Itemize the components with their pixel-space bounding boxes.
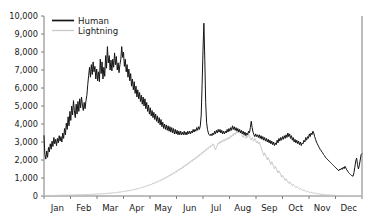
x-tick-label: Feb [76, 203, 91, 213]
y-tick-label: 10,000 [9, 11, 38, 21]
y-tick-label: 1,000 [15, 173, 38, 183]
x-tick-label: Mar [102, 203, 119, 213]
y-tick-label: 5,000 [15, 101, 38, 111]
y-tick-label: 8,000 [15, 47, 38, 57]
x-tick-label: Sep [261, 203, 277, 213]
x-tick-label: Jul [210, 203, 221, 213]
y-tick-label: 0 [33, 191, 38, 201]
y-tick-label: 4,000 [15, 119, 38, 129]
x-tick-label: Dec [340, 203, 357, 213]
y-tick-label: 7,000 [15, 65, 38, 75]
legend-label-human: Human [78, 16, 109, 26]
x-tick-label: Oct [288, 203, 303, 213]
x-tick-label: Aug [234, 203, 251, 213]
y-tick-label: 3,000 [15, 137, 38, 147]
y-tick-label: 9,000 [15, 29, 38, 39]
x-tick-label: Jun [182, 203, 196, 213]
y-tick-label: 6,000 [15, 83, 38, 93]
x-tick-label: Jan [50, 203, 64, 213]
y-tick-label: 2,000 [15, 155, 38, 165]
legend-label-lightning: Lightning [78, 26, 118, 36]
x-tick-label: May [154, 203, 172, 213]
x-tick-label: Nov [314, 203, 331, 213]
line-chart: 01,0002,0003,0004,0005,0006,0007,0008,00… [0, 0, 377, 224]
chart-background [0, 0, 377, 224]
x-tick-label: Apr [129, 203, 144, 213]
chart-container: 01,0002,0003,0004,0005,0006,0007,0008,00… [0, 0, 377, 224]
